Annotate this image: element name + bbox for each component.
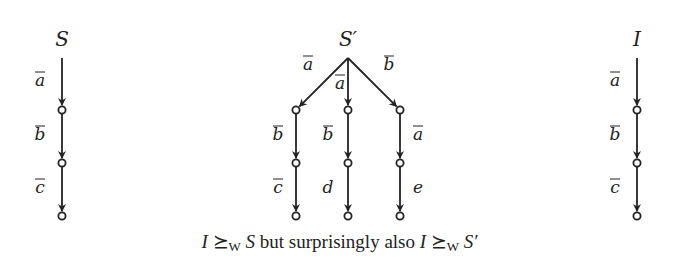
figure-caption: I ⪰W S but surprisingly also I ⪰W S′ bbox=[0, 230, 679, 255]
tree-node bbox=[58, 106, 65, 113]
edge-label: a bbox=[413, 124, 423, 144]
edge-label: b bbox=[35, 124, 46, 144]
caption-middle-text: but surprisingly also bbox=[255, 231, 420, 252]
tree-node bbox=[396, 159, 403, 166]
caption-rhs-2: S′ bbox=[464, 231, 478, 252]
tree-node bbox=[344, 159, 351, 166]
tree-node bbox=[396, 106, 403, 113]
edge-label: a bbox=[35, 70, 45, 90]
tree-node bbox=[292, 106, 299, 113]
edge-label: a bbox=[610, 70, 620, 90]
caption-var-1: I bbox=[201, 231, 207, 252]
edge-label: c bbox=[610, 177, 620, 197]
root-label: S′ bbox=[339, 27, 358, 51]
edge-label: c bbox=[273, 177, 283, 197]
edge-label: b bbox=[323, 124, 334, 144]
edge-label: b bbox=[384, 54, 395, 74]
caption-relation-1: ⪰W bbox=[213, 231, 241, 252]
tree-node bbox=[292, 159, 299, 166]
nodes bbox=[58, 106, 640, 219]
edge-label: a bbox=[335, 73, 345, 93]
edge-label: d bbox=[323, 177, 334, 197]
edge-label: c bbox=[35, 177, 45, 197]
edge-label: e bbox=[413, 177, 423, 197]
caption-var-2: I bbox=[420, 231, 426, 252]
tree-node bbox=[633, 159, 640, 166]
edge-label: b bbox=[610, 124, 621, 144]
root-label: S bbox=[55, 27, 69, 51]
labels: abcaabbbacdeabcSS′I bbox=[35, 27, 642, 197]
edges bbox=[62, 58, 637, 211]
tree-node bbox=[633, 106, 640, 113]
edge-label: b bbox=[273, 124, 284, 144]
caption-rhs-1: S bbox=[246, 231, 256, 252]
tree-node bbox=[344, 212, 351, 219]
tree-node bbox=[292, 212, 299, 219]
tree-node bbox=[633, 212, 640, 219]
tree-node bbox=[396, 212, 403, 219]
tree-node bbox=[58, 212, 65, 219]
tree-node bbox=[344, 106, 351, 113]
root-label: I bbox=[632, 27, 642, 51]
edge-label: a bbox=[303, 54, 313, 74]
tree-node bbox=[58, 159, 65, 166]
caption-relation-2: ⪰W bbox=[431, 231, 459, 252]
